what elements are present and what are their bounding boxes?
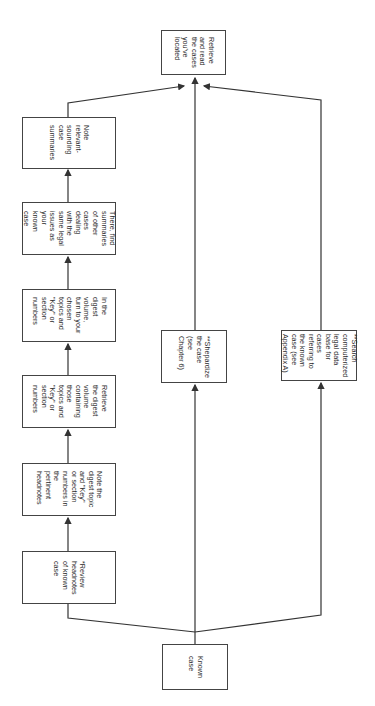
node-label: *Review headnotes of known case	[52, 561, 86, 595]
node-in-digest-volume: In the digest volume, turn to your chose…	[22, 289, 116, 342]
node-label: In the digest volume, turn to your chose…	[30, 297, 107, 333]
node-search-database: **Search computerized legal data base fo…	[281, 330, 357, 381]
node-retrieve-digest-volume: Retrieve the digest volume containing th…	[22, 375, 116, 428]
node-find-summaries: There, find summaries of other cases dea…	[22, 202, 116, 255]
node-review-headnotes: *Review headnotes of known case	[22, 551, 116, 604]
node-note-digest-topic: Note the digest topic and "Key" or secti…	[22, 463, 116, 516]
node-label: Retrieve the digest volume containing th…	[30, 385, 107, 418]
node-label: **Shepardize the case (see Chapter 6)	[177, 336, 211, 378]
node-label: There, find summaries of other cases dea…	[22, 211, 117, 246]
node-label: Note relevant- sounding case summaries	[48, 125, 91, 160]
node-label: Note the digest topic and "Key" or secti…	[35, 471, 104, 507]
node-shepardize: **Shepardize the case (see Chapter 6)	[161, 330, 227, 383]
node-known-case: Known case	[162, 644, 228, 690]
node-label: Retrieve and read the cases you've locat…	[172, 37, 215, 68]
node-label: Known case	[186, 656, 203, 678]
node-label: **Search computerized legal data base fo…	[280, 334, 357, 377]
node-note-relevant: Note relevant- sounding case summaries	[22, 117, 116, 169]
node-retrieve-read: Retrieve and read the cases you've locat…	[161, 30, 226, 75]
